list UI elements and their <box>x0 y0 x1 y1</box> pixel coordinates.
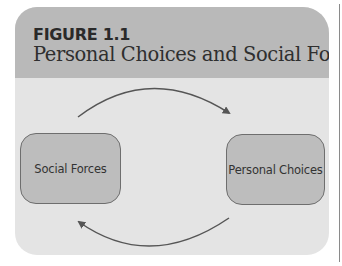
arrow-top-icon <box>78 88 229 117</box>
cycle-arrows <box>0 0 342 266</box>
arrow-bottom-icon <box>79 218 229 246</box>
page-divider <box>339 4 340 262</box>
